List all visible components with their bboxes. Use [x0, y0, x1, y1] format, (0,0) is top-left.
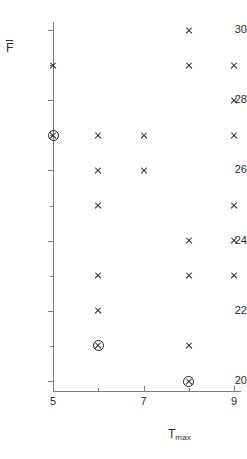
cross-icon [184, 271, 193, 280]
x-tick-label: 7 [132, 396, 156, 407]
cross-icon [184, 341, 193, 350]
x-tick-label: 9 [222, 396, 246, 407]
data-point-x [230, 271, 239, 280]
cross-icon [49, 61, 58, 70]
data-point-x [94, 131, 103, 140]
y-tick [48, 381, 54, 382]
data-point-x [230, 96, 239, 105]
cross-icon [184, 26, 193, 35]
x-tick-label: 5 [41, 396, 65, 407]
cross-icon [230, 271, 239, 280]
data-point-x [94, 271, 103, 280]
y-axis-title: F [6, 40, 13, 54]
data-point-x [184, 341, 193, 350]
data-point-x [94, 306, 103, 315]
x-tick [98, 388, 99, 392]
data-point-circled-x [183, 376, 194, 387]
y-axis-line [53, 22, 54, 392]
x-axis-title-subscript: max [175, 433, 191, 442]
cross-icon [184, 377, 193, 386]
cross-icon [94, 166, 103, 175]
y-tick [48, 100, 54, 101]
data-point-x [139, 166, 148, 175]
cross-icon [230, 61, 239, 70]
data-point-x [184, 271, 193, 280]
cross-icon [94, 271, 103, 280]
data-point-x [49, 61, 58, 70]
cross-icon [184, 61, 193, 70]
x-tick [53, 386, 54, 392]
data-point-x [230, 131, 239, 140]
data-point-x [230, 236, 239, 245]
x-tick [189, 388, 190, 392]
cross-icon [139, 131, 148, 140]
data-point-x [230, 201, 239, 210]
data-point-x [184, 61, 193, 70]
cross-icon [230, 96, 239, 105]
x-axis-line [53, 391, 241, 392]
cross-icon [94, 201, 103, 210]
cross-icon [184, 236, 193, 245]
cross-icon [94, 131, 103, 140]
cross-icon [230, 236, 239, 245]
y-tick [50, 206, 54, 207]
cross-icon [94, 341, 103, 350]
y-tick-label: 26 [203, 164, 247, 175]
data-point-circled-x [93, 340, 104, 351]
data-point-circled-x [48, 130, 59, 141]
data-point-x [94, 201, 103, 210]
y-tick-label: 24 [203, 235, 247, 246]
cross-icon [139, 166, 148, 175]
y-axis-title-text: F [6, 40, 13, 54]
data-point-x [230, 61, 239, 70]
cross-icon [94, 306, 103, 315]
data-point-x [184, 26, 193, 35]
y-tick [48, 241, 54, 242]
x-axis-title: Tmax [168, 428, 191, 444]
y-tick-label: 22 [203, 305, 247, 316]
y-tick [48, 311, 54, 312]
x-tick [144, 386, 145, 392]
scatter-plot-figure: 202224262830 579 F Tmax [0, 0, 247, 459]
x-tick [234, 386, 235, 392]
cross-icon [230, 131, 239, 140]
y-tick [50, 346, 54, 347]
y-tick [48, 30, 54, 31]
y-tick [48, 170, 54, 171]
data-point-x [184, 236, 193, 245]
y-tick [50, 276, 54, 277]
cross-icon [49, 131, 58, 140]
data-point-x [139, 131, 148, 140]
y-tick-label: 20 [203, 375, 247, 386]
y-tick-label: 28 [203, 94, 247, 105]
y-tick-label: 30 [203, 24, 247, 35]
data-point-x [94, 166, 103, 175]
cross-icon [230, 201, 239, 210]
